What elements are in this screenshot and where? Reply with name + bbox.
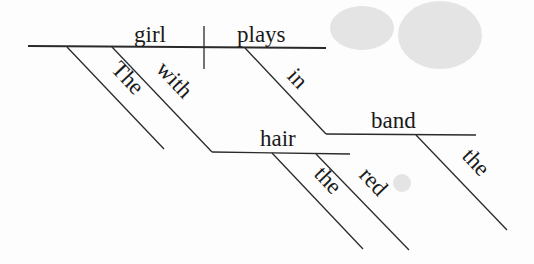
- word-the-subject: The: [106, 56, 149, 99]
- word-red: red: [354, 162, 393, 201]
- sentence-diagram: girl plays band hair The with in the red…: [0, 0, 534, 264]
- slant-the-hair: [272, 153, 363, 249]
- word-hair: hair: [260, 126, 296, 151]
- slant-the-subject: [67, 47, 164, 149]
- diagram-canvas: girl plays band hair The with in the red…: [0, 0, 534, 264]
- word-the-hair: the: [309, 161, 346, 199]
- band-baseline: [326, 134, 476, 135]
- slant-the-band: [416, 135, 507, 230]
- word-in: in: [282, 63, 313, 94]
- word-girl: girl: [134, 22, 166, 47]
- hair-baseline: [212, 152, 350, 154]
- word-the-band: the: [457, 143, 494, 181]
- word-band: band: [371, 108, 416, 133]
- paper-smudges: [330, 1, 482, 192]
- word-plays: plays: [237, 22, 286, 47]
- slant-in: [245, 48, 326, 134]
